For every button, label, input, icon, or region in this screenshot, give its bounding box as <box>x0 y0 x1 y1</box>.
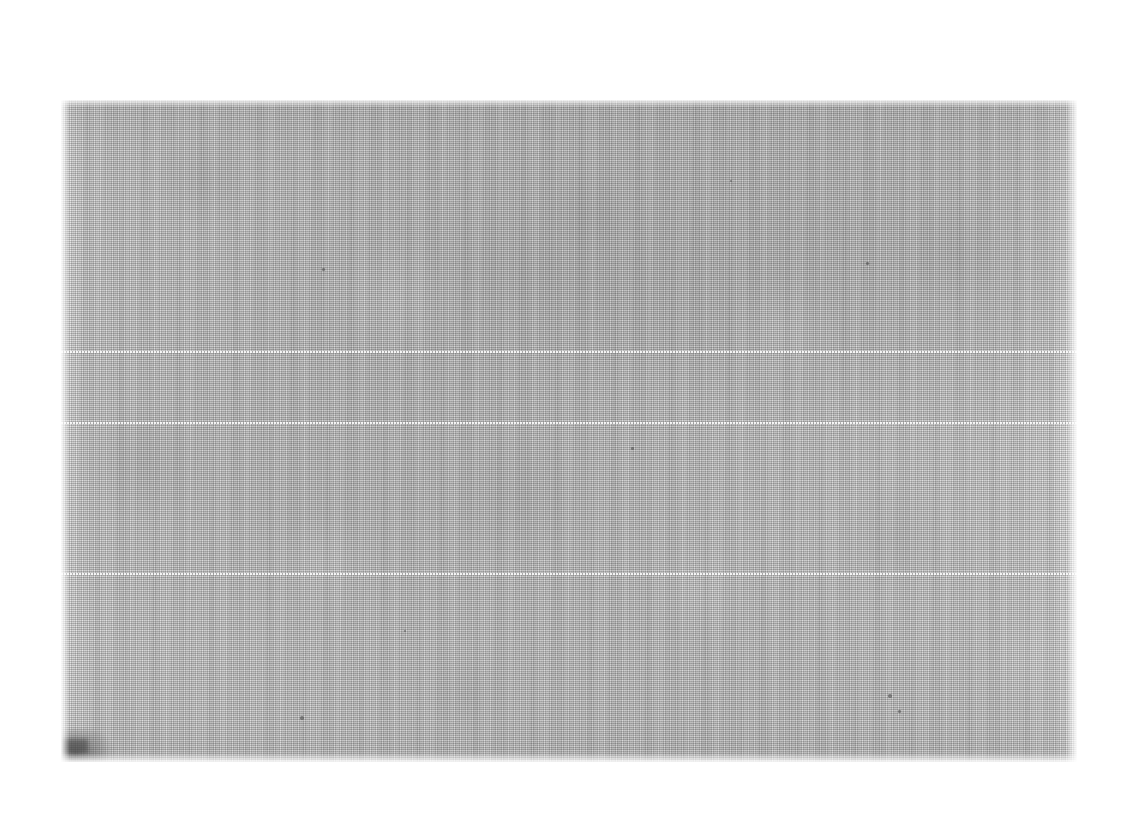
scan-halftone-layer-a <box>61 100 1077 762</box>
scan-line-upper <box>61 351 1077 353</box>
ink-speck-6 <box>404 630 406 632</box>
corner-smudge-core <box>62 739 88 753</box>
ink-speck-1 <box>866 262 869 265</box>
ink-speck-0 <box>322 268 325 271</box>
ink-speck-2 <box>300 716 304 720</box>
scan-line-middle <box>61 422 1077 424</box>
scan-line-lower <box>61 573 1077 575</box>
ink-speck-3 <box>888 694 892 698</box>
ink-speck-4 <box>898 710 901 713</box>
page-canvas <box>0 0 1133 825</box>
scanned-page-image <box>61 100 1077 762</box>
ink-speck-5 <box>631 447 634 450</box>
ink-speck-7 <box>730 180 732 182</box>
